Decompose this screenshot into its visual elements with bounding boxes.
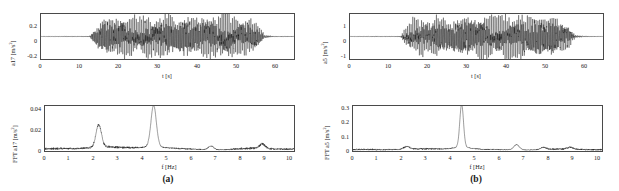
xtick-a5-fft-5: 5	[465, 154, 483, 161]
xtick-a17-fft-3: 3	[108, 154, 126, 161]
xtick-a5-time-0: 0	[340, 62, 358, 69]
xtick-a17-fft-10: 10	[280, 154, 298, 161]
xtick-a5-fft-10: 10	[588, 154, 606, 161]
plot-area-a17-fft	[44, 105, 295, 152]
ytick-a5-fft-0: 0	[328, 147, 349, 154]
xtick-a17-fft-2: 2	[84, 154, 102, 161]
xtick-a17-time-1: 10	[70, 62, 88, 69]
xtick-a17-fft-1: 1	[59, 154, 77, 161]
ytick-a5-fft-2: 0.2	[328, 118, 349, 125]
ytick-a5-time-2: -1	[326, 52, 346, 59]
axis-label-x-a17-fft: f [Hz]	[139, 163, 199, 170]
ytick-a17-time-0: 0.2	[14, 22, 37, 29]
xtick-a5-fft-8: 8	[539, 154, 557, 161]
ytick-a17-time-2: -0.2	[14, 52, 37, 59]
ytick-a5-fft-1: 0.1	[328, 133, 349, 140]
xtick-a5-fft-4: 4	[441, 154, 459, 161]
xtick-a17-fft-8: 8	[231, 154, 249, 161]
xtick-a5-fft-0: 0	[343, 154, 361, 161]
plot-area-a5-time	[349, 13, 604, 60]
xtick-a17-fft-0: 0	[35, 154, 53, 161]
xtick-a5-fft-2: 2	[392, 154, 410, 161]
xtick-a17-time-2: 20	[109, 62, 127, 69]
xtick-a5-fft-9: 9	[563, 154, 581, 161]
ytick-a17-fft-2: 0.04	[15, 105, 41, 112]
plot-area-a5-fft	[352, 105, 603, 152]
xtick-a17-fft-4: 4	[133, 154, 151, 161]
xtick-a17-fft-5: 5	[157, 154, 175, 161]
xtick-a17-time-3: 30	[148, 62, 166, 69]
ytick-a5-time-1: 0	[326, 37, 346, 44]
ytick-a5-time-0: 1	[326, 22, 346, 29]
axis-label-y-a5-fft: FFT a5 [m/s2]	[323, 125, 330, 160]
axis-label-x-a5-fft: f [Hz]	[447, 163, 507, 170]
ytick-a17-fft-1: 0.02	[15, 126, 41, 133]
xtick-a17-time-0: 0	[31, 62, 49, 69]
xtick-a5-time-4: 40	[497, 62, 515, 69]
ytick-a17-time-1: 0	[14, 37, 37, 44]
xtick-a17-fft-9: 9	[255, 154, 273, 161]
axis-label-x-a5-time: t [s]	[446, 72, 506, 79]
plot-area-a17-time	[40, 13, 295, 60]
ytick-a17-fft-0: 0	[15, 147, 41, 154]
xtick-a17-fft-7: 7	[206, 154, 224, 161]
subfigure-caption-a: (a)	[138, 174, 198, 184]
xtick-a5-time-5: 50	[536, 62, 554, 69]
xtick-a5-fft-3: 3	[416, 154, 434, 161]
ytick-a5-fft-3: 0.3	[328, 104, 349, 111]
subfigure-caption-b: (b)	[446, 174, 506, 184]
xtick-a5-time-1: 10	[379, 62, 397, 69]
xtick-a5-time-2: 20	[418, 62, 436, 69]
figure-container: a17 [m/s2] 0.2 0 -0.2 0 10 20 30 40 50 6…	[0, 0, 619, 191]
xtick-a17-time-5: 50	[227, 62, 245, 69]
xtick-a5-time-6: 60	[575, 62, 593, 69]
xtick-a17-fft-6: 6	[182, 154, 200, 161]
axis-label-x-a17-time: t [s]	[137, 72, 197, 79]
xtick-a5-fft-7: 7	[514, 154, 532, 161]
xtick-a17-time-4: 40	[188, 62, 206, 69]
xtick-a5-fft-1: 1	[367, 154, 385, 161]
xtick-a5-fft-6: 6	[490, 154, 508, 161]
xtick-a5-time-3: 30	[457, 62, 475, 69]
xtick-a17-time-6: 60	[266, 62, 284, 69]
